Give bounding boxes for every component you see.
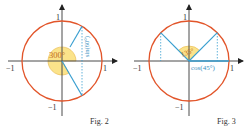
figure-3: 135° cos(45°) 1 −1 −1 1 Fig. 3 — [133, 5, 243, 126]
y-pos-label: 1 — [56, 13, 60, 22]
y-neg-label: −1 — [175, 103, 184, 112]
unit-circle-diagrams: 300° sin(60°) 1 −1 −1 1 Fig. 2 135° cos(… — [0, 0, 246, 129]
ray-label: cos(45°) — [191, 64, 215, 72]
x-pos-label: 1 — [230, 64, 234, 73]
ray-60 — [70, 26, 82, 47]
y-pos-label: 1 — [183, 13, 187, 22]
x-neg-label: −1 — [133, 64, 142, 73]
ray-300 — [62, 61, 82, 96]
figure-caption: Fig. 2 — [90, 117, 109, 126]
figure-2: 300° sin(60°) 1 −1 −1 1 Fig. 2 — [6, 5, 117, 126]
angle-label: 300° — [49, 50, 65, 60]
y-neg-label: −1 — [48, 103, 57, 112]
ray-label: sin(60°) — [83, 36, 91, 57]
figure-caption: Fig. 3 — [217, 117, 236, 126]
x-neg-label: −1 — [6, 64, 15, 73]
x-pos-label: 1 — [103, 64, 107, 73]
